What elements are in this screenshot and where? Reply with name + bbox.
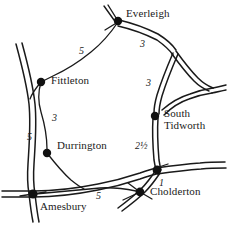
distance-label-south-tidworth-cholderton: 2½ bbox=[135, 140, 148, 151]
node-everleigh[interactable] bbox=[114, 17, 122, 25]
road-map: Everleigh Fittleton South Tidworth Durri… bbox=[0, 0, 227, 228]
node-fittleton[interactable] bbox=[37, 78, 45, 86]
road-tidworth-spur bbox=[154, 53, 178, 114]
road-durrington-south bbox=[47, 153, 84, 189]
node-cholderton[interactable] bbox=[136, 188, 145, 197]
road-everleigh-east bbox=[118, 20, 176, 55]
distance-label-everleigh-fittleton: 5 bbox=[79, 45, 84, 56]
distance-label-junction-south-tidworth: 3 bbox=[146, 77, 151, 88]
node-cholderton-junction[interactable] bbox=[153, 166, 162, 175]
distance-label-amesbury-durrington: 5 bbox=[27, 131, 32, 142]
place-label-everleigh: Everleigh bbox=[126, 8, 170, 20]
place-label-south-tidworth: South Tidworth bbox=[164, 108, 205, 131]
place-label-amesbury: Amesbury bbox=[40, 201, 87, 213]
distance-label-junction-cholderton: 1 bbox=[159, 177, 164, 188]
node-durrington[interactable] bbox=[43, 149, 51, 157]
road-triangle-loop bbox=[162, 51, 226, 115]
distance-label-amesbury-cholderton: 5 bbox=[96, 190, 101, 201]
place-label-fittleton: Fittleton bbox=[51, 75, 89, 87]
place-label-cholderton: Cholderton bbox=[150, 186, 201, 198]
node-amesbury[interactable] bbox=[28, 189, 37, 198]
road-fittleton-durrington bbox=[39, 82, 47, 149]
node-south-tidworth[interactable] bbox=[151, 112, 159, 120]
place-label-durrington: Durrington bbox=[57, 140, 107, 152]
road-junction-east bbox=[156, 162, 226, 174]
road-main-south bbox=[2, 168, 156, 197]
road-tidworth-south bbox=[153, 118, 161, 170]
distance-label-everleigh-junction: 3 bbox=[140, 38, 145, 49]
distance-label-fittleton-durrington: 3 bbox=[52, 112, 57, 123]
